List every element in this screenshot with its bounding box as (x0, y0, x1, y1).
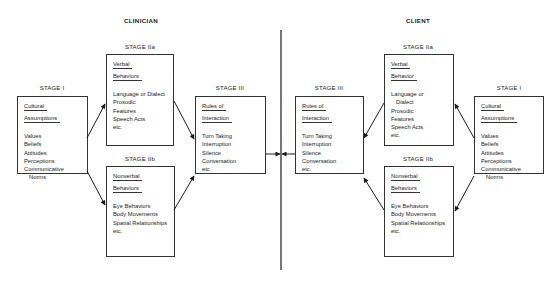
list-item: Values (481, 132, 543, 140)
arrow-client-stage1-to-stage2a (455, 104, 474, 138)
list-item: Norms (481, 173, 543, 181)
list-item: Prosodic (113, 98, 173, 106)
list-item: Interruption (202, 140, 265, 148)
list-item: Language or (391, 90, 453, 98)
list-item: Prosodic (391, 107, 453, 115)
list-item: Features (113, 107, 173, 115)
list-item: Silence (202, 149, 265, 157)
arrow-client-stage2a-to-stage3 (364, 103, 384, 138)
arrow-stage1-to-stage2b (87, 171, 105, 205)
client-stage2b-label: STAGE IIb (403, 156, 433, 162)
list-item: Silence (302, 149, 363, 157)
arrow-stage2b-to-stage3 (174, 176, 194, 210)
box-heading: Rules of Interaction (202, 102, 265, 126)
box-heading: Cultural Assumptions (481, 102, 543, 126)
list-item: Dialect (391, 98, 453, 106)
clinician-stage1-label: STAGE I (40, 85, 65, 91)
list-item: Perceptions (24, 157, 87, 165)
client-title: CLIENT (406, 17, 430, 24)
clinician-stage3-box: Rules of Interaction Turn Taking Interru… (195, 96, 266, 174)
list-item: etc. (391, 131, 453, 139)
list-item: Conversation (202, 157, 265, 165)
list-item: etc. (113, 227, 174, 235)
client-stage3-label: STAGE III (315, 85, 343, 91)
list-item: Language or Dialect (113, 90, 173, 98)
list-item: Speech Acts (391, 123, 453, 131)
arrow-client-stage1-to-stage2b (455, 176, 474, 211)
list-item: Norms (24, 173, 87, 181)
clinician-stage3-label: STAGE III (216, 85, 244, 91)
box-heading: Cultural Assumptions (24, 102, 87, 126)
box-heading: Verbal Behavior (391, 60, 453, 84)
list-item: Turn Taking (202, 132, 265, 140)
list-item: Eye Behaviors (391, 202, 453, 210)
clinician-stage2b-box: Nonverbal Behaviors Eye Behaviors Body M… (106, 166, 175, 257)
list-item: Features (391, 115, 453, 123)
list-item: Body Movements (113, 210, 174, 218)
clinician-title: CLINICIAN (124, 17, 158, 24)
client-stage1-label: STAGE I (497, 85, 522, 91)
list-item: Body Movements (391, 210, 453, 218)
client-stage2b-box: Nonverbal Behaviors Eye Behaviors Body M… (384, 166, 454, 257)
list-item: Speech Acts (113, 115, 173, 123)
client-stage2a-label: STAGE IIa (403, 44, 433, 50)
clinician-stage2a-label: STAGE IIa (125, 44, 155, 50)
list-item: Eye Behaviors (113, 202, 174, 210)
list-item: Attitudes (24, 149, 87, 157)
list-item: Conversation (302, 157, 363, 165)
client-stage2a-box: Verbal Behavior Language or Dialect Pros… (384, 54, 454, 146)
list-item: etc. (391, 227, 453, 235)
list-item: Spatial Relationships (113, 219, 174, 227)
arrow-stage2a-to-stage3 (174, 101, 194, 139)
list-item: Spatial Relationships (391, 219, 453, 227)
list-item: Values (24, 132, 87, 140)
list-item: Attitudes (481, 149, 543, 157)
clinician-stage2b-label: STAGE IIb (125, 156, 155, 162)
client-stage3-box: Rules of Interaction Turn Taking Interru… (295, 96, 364, 174)
list-item: etc. (302, 165, 363, 173)
arrow-client-stage2b-to-stage3 (364, 178, 384, 210)
arrow-stage1-to-stage2a (87, 104, 105, 138)
list-item: Perceptions (481, 157, 543, 165)
box-heading: Rules of Interaction (302, 102, 363, 126)
list-item: Turn Taking (302, 132, 363, 140)
box-heading: Verbal Behaviors (113, 60, 173, 84)
list-item: Beliefs (481, 140, 543, 148)
list-item: etc. (202, 165, 265, 173)
list-item: Communicative (24, 165, 87, 173)
list-item: Communicative (481, 165, 543, 173)
box-heading: Nonverbal Behaviors (113, 172, 174, 196)
list-item: etc. (113, 123, 173, 131)
list-item: Interruption (302, 140, 363, 148)
client-stage1-box: Cultural Assumptions Values Beliefs Atti… (474, 96, 544, 174)
clinician-stage1-box: Cultural Assumptions Values Beliefs Atti… (17, 96, 88, 174)
box-heading: Nonverbal Behaviors (391, 172, 453, 196)
clinician-stage2a-box: Verbal Behaviors Language or Dialect Pro… (106, 54, 174, 146)
list-item: Beliefs (24, 140, 87, 148)
